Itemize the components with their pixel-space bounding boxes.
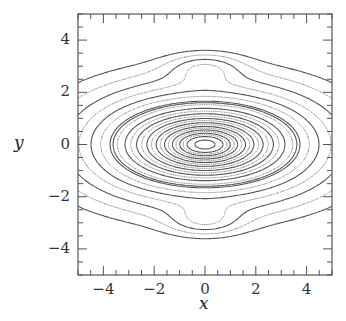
contour-solid <box>78 59 332 229</box>
axis-ticks <box>78 14 332 275</box>
contour-dotted <box>117 105 292 185</box>
y-tick-label: 4 <box>60 30 70 48</box>
contour-solid <box>78 50 332 238</box>
contour-dotted <box>131 111 279 178</box>
y-tick-label: 0 <box>60 135 70 153</box>
x-tick-label: 2 <box>251 280 261 298</box>
contour-solid <box>187 137 223 153</box>
y-axis-label: y <box>14 132 24 152</box>
contour-secondary <box>113 103 297 187</box>
x-axis-label: x <box>199 293 209 313</box>
contour-dotted <box>176 132 234 158</box>
contour-dotted <box>183 135 227 154</box>
y-tick-label: 2 <box>60 82 70 100</box>
contour-lines <box>78 50 332 238</box>
x-tick-label: −2 <box>143 280 165 298</box>
contour-dotted <box>160 125 250 165</box>
y-tick-label: −2 <box>48 187 70 205</box>
contour-plot <box>0 0 346 321</box>
plot-frame <box>78 14 332 275</box>
contour-dotted <box>79 64 331 224</box>
x-tick-label: 4 <box>302 280 312 298</box>
contour-solid <box>125 108 285 180</box>
contour-solid <box>156 123 254 167</box>
x-tick-label: −4 <box>92 280 114 298</box>
y-tick-label: −4 <box>48 239 70 257</box>
contour-solid <box>195 140 215 149</box>
contour-dotted <box>78 55 332 234</box>
